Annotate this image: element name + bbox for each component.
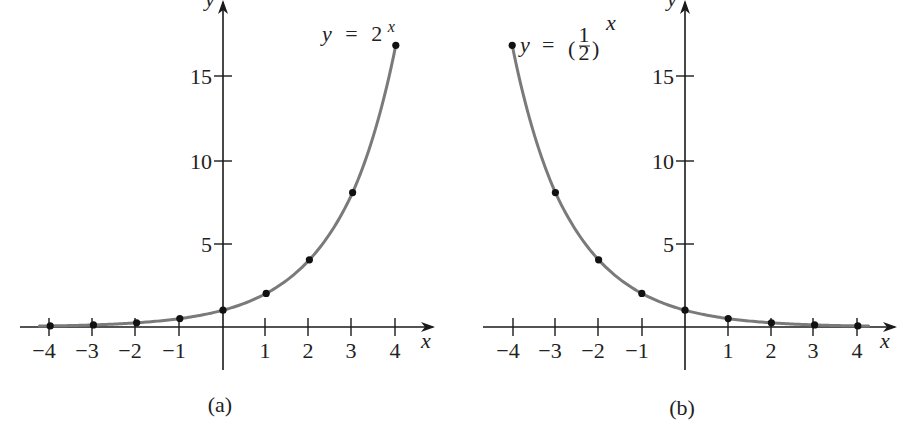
x-axis-label: x bbox=[420, 328, 431, 353]
y-tick-label: 15 bbox=[190, 64, 212, 89]
y-ticks: 15 10 5 bbox=[652, 64, 694, 257]
x-tick-label: 1 bbox=[723, 338, 734, 363]
data-point bbox=[306, 256, 313, 263]
svg-text:=: = bbox=[542, 32, 554, 57]
data-point bbox=[47, 322, 54, 329]
data-point bbox=[133, 319, 140, 326]
x-tick-label: 4 bbox=[390, 338, 401, 363]
x-tick-label: 4 bbox=[852, 338, 863, 363]
panel-a: x y −4 −3 −2 −1 1 2 3 4 15 10 5 bbox=[20, 0, 433, 417]
exponential-graphs-figure: x y −4 −3 −2 −1 1 2 3 4 15 10 5 bbox=[0, 0, 908, 436]
y-ticks: 15 10 5 bbox=[190, 64, 232, 257]
data-point bbox=[90, 321, 97, 328]
data-point bbox=[219, 307, 226, 314]
x-tick-label: 3 bbox=[346, 338, 357, 363]
data-point bbox=[854, 322, 861, 329]
exponential-curve-half-x bbox=[512, 45, 868, 326]
panel-caption-a: (a) bbox=[208, 392, 232, 417]
y-axis-label: y bbox=[665, 0, 677, 11]
x-tick-label: −2 bbox=[581, 338, 604, 363]
panel-caption-b: (b) bbox=[669, 395, 695, 420]
y-tick-label: 10 bbox=[652, 149, 674, 174]
x-axis-label: x bbox=[879, 328, 890, 353]
y-tick-label: 5 bbox=[663, 232, 674, 257]
data-point bbox=[263, 290, 270, 297]
data-point bbox=[509, 42, 516, 49]
data-point bbox=[176, 315, 183, 322]
svg-text:(: ( bbox=[568, 36, 575, 61]
y-tick-label: 5 bbox=[201, 232, 212, 257]
data-point bbox=[811, 321, 818, 328]
data-point bbox=[725, 315, 732, 322]
x-tick-label: −3 bbox=[75, 338, 98, 363]
data-point bbox=[768, 319, 775, 326]
x-tick-label: −1 bbox=[162, 338, 185, 363]
y-axis-label: y bbox=[203, 0, 215, 11]
panel-b: x y −4 −3 −2 −1 1 2 3 4 15 10 5 bbox=[483, 0, 895, 420]
x-tick-label: −2 bbox=[118, 338, 141, 363]
data-point bbox=[392, 42, 399, 49]
svg-text:y: y bbox=[518, 32, 530, 57]
x-tick-label: 1 bbox=[260, 338, 271, 363]
data-point bbox=[349, 189, 356, 196]
svg-text:x: x bbox=[605, 10, 616, 35]
data-point bbox=[681, 307, 688, 314]
x-tick-label: 2 bbox=[303, 338, 314, 363]
y-tick-label: 15 bbox=[652, 64, 674, 89]
x-tick-label: 3 bbox=[808, 338, 819, 363]
x-tick-label: −4 bbox=[496, 338, 519, 363]
equation-label-half-x: y = ( 1 2 ) x bbox=[518, 10, 616, 65]
svg-text:): ) bbox=[592, 36, 599, 61]
data-point bbox=[638, 290, 645, 297]
x-tick-label: 2 bbox=[766, 338, 777, 363]
equation-label-2x: y = 2 x bbox=[320, 18, 395, 46]
data-point bbox=[595, 256, 602, 263]
x-tick-label: −4 bbox=[32, 338, 55, 363]
exponential-curve-2x bbox=[39, 45, 395, 326]
x-tick-label: −1 bbox=[625, 338, 648, 363]
svg-text:2: 2 bbox=[579, 40, 590, 65]
y-tick-label: 10 bbox=[190, 149, 212, 174]
x-tick-label: −3 bbox=[538, 338, 561, 363]
data-point bbox=[552, 189, 559, 196]
